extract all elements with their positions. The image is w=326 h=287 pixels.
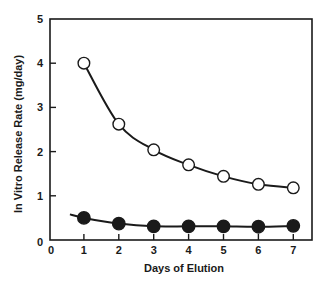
x-tick-label: 0 [48,244,54,256]
x-axis-ticks: 01234567 [48,234,296,256]
y-tick-label: 0 [37,236,43,248]
y-tick-label: 5 [37,13,43,25]
filled-circle-marker [148,220,160,232]
release-rate-chart: 012345 01234567 Days of Elution In Vitro… [0,0,326,287]
x-tick-label: 1 [81,244,87,256]
open-circle-marker [288,182,300,194]
data-series [70,57,300,233]
open-circle-marker [148,144,160,156]
filled-circle-marker [287,220,299,232]
filled-circle-marker [182,220,194,232]
y-axis-ticks: 012345 [37,13,56,248]
open-circle-marker [78,57,90,69]
x-tick-label: 6 [255,244,261,256]
series-open-circles [78,57,299,193]
y-tick-label: 2 [37,146,43,158]
x-tick-label: 5 [220,244,226,256]
open-circle-marker [183,159,195,171]
x-tick-label: 7 [290,244,296,256]
plot-frame [50,19,312,240]
y-tick-label: 1 [37,190,43,202]
filled-circle-marker [217,220,229,232]
y-tick-label: 4 [37,57,44,69]
open-circle-marker [113,118,125,130]
y-tick-label: 3 [37,101,43,113]
filled-circle-marker [252,221,264,233]
x-tick-label: 2 [116,244,122,256]
filled-circle-marker [113,217,125,229]
x-tick-label: 3 [151,244,157,256]
x-tick-label: 4 [186,244,193,256]
x-axis-label: Days of Elution [144,262,224,274]
y-axis-label: In Vitro Release Rate (mg/day) [12,55,24,213]
open-circle-marker [218,171,230,183]
series-filled-circles [70,212,300,233]
open-circle-marker [253,179,265,191]
filled-circle-marker [78,212,90,224]
